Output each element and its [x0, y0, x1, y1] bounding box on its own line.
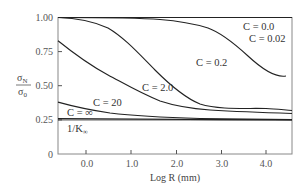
chart: 1.00 0.75 0.50 0.25 0 σN σ0 0.0 1.0 2.0 …	[0, 0, 307, 194]
y-tick-label: 0	[48, 149, 53, 160]
x-tick-labels: 0.0 1.0 2.0 3.0 4.0	[81, 158, 273, 169]
y-axis	[58, 18, 62, 120]
x-tick-label: 2.0	[171, 158, 184, 169]
x-axis	[86, 150, 266, 154]
label-c-20: C = 20	[93, 97, 122, 108]
y-tick-labels: 1.00 0.75 0.50 0.25 0	[36, 12, 54, 160]
y-tick-label: 1.00	[36, 12, 54, 23]
label-c-0-2: C = 0.2	[196, 57, 227, 68]
x-axis-title: Log R (mm)	[150, 172, 200, 184]
y-tick-label: 0.25	[36, 114, 54, 125]
x-tick-label: 4.0	[260, 158, 273, 169]
label-c-0-02: C = 0.02	[249, 33, 286, 44]
y-tick-label: 0.50	[36, 80, 54, 91]
label-1-k-inf: 1/K∞	[67, 123, 88, 136]
label-c-inf: C = ∞	[67, 107, 93, 118]
y-axis-title-numerator: σN	[17, 72, 27, 85]
y-axis-title: σN σ0	[16, 72, 31, 99]
label-c-2-0: C = 2.0	[142, 82, 173, 93]
y-tick-label: 0.75	[36, 46, 54, 57]
y-axis-title-denominator: σ0	[18, 86, 27, 99]
x-tick-label: 0.0	[81, 158, 94, 169]
x-tick-label: 1.0	[126, 158, 139, 169]
x-tick-label: 3.0	[216, 158, 229, 169]
label-c-0-0: C = 0.0	[243, 21, 274, 32]
